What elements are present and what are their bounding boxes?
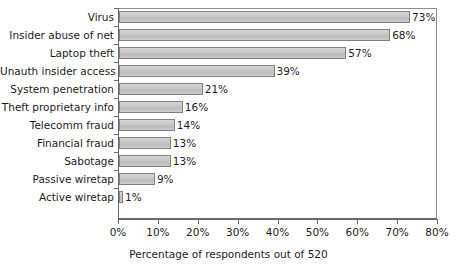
bar-row: Active wiretap1%	[0, 188, 457, 206]
bar	[119, 101, 183, 113]
x-axis-tick	[198, 219, 199, 224]
bar	[119, 29, 390, 41]
y-axis-tick	[114, 170, 118, 171]
category-label: Passive wiretap	[0, 170, 114, 188]
category-label: Telecomm fraud	[0, 116, 114, 134]
bar-row: Financial fraud13%	[0, 134, 457, 152]
bar-value-label: 57%	[348, 46, 371, 60]
bar-row: System penetration21%	[0, 80, 457, 98]
category-label: System penetration	[0, 80, 114, 98]
bar-value-label: 13%	[173, 136, 196, 150]
category-label: Laptop theft	[0, 44, 114, 62]
bar-value-label: 16%	[185, 100, 208, 114]
bar-value-label: 21%	[205, 82, 228, 96]
bar	[119, 47, 346, 59]
bar-rows: Virus73%Insider abuse of net68%Laptop th…	[0, 8, 457, 219]
x-axis-tick-label: 10%	[136, 226, 180, 238]
category-label: Financial fraud	[0, 134, 114, 152]
x-axis-tick	[397, 219, 398, 224]
bar	[119, 155, 171, 167]
category-label: Virus	[0, 8, 114, 26]
bar-row: Insider abuse of net68%	[0, 26, 457, 44]
bar-value-label: 68%	[392, 28, 415, 42]
y-axis-tick	[114, 188, 118, 189]
bar-chart: Virus73%Insider abuse of net68%Laptop th…	[0, 0, 457, 278]
y-axis-tick	[114, 44, 118, 45]
page-footer-artifact	[250, 268, 440, 276]
x-axis-tick-label: 70%	[375, 226, 419, 238]
bar	[119, 173, 155, 185]
bar	[119, 137, 171, 149]
y-axis-tick	[114, 116, 118, 117]
bar-value-label: 9%	[157, 172, 174, 186]
bar-value-label: 39%	[277, 64, 300, 78]
bar-value-label: 73%	[412, 10, 435, 24]
x-axis-tick	[278, 219, 279, 224]
bar-row: Telecomm fraud14%	[0, 116, 457, 134]
category-label: Sabotage	[0, 152, 114, 170]
x-axis-tick-label: 20%	[176, 226, 220, 238]
bar-row: Theft proprietary info16%	[0, 98, 457, 116]
x-axis-tick-label: 0%	[96, 226, 140, 238]
x-axis-tick	[317, 219, 318, 224]
x-axis-tick	[158, 219, 159, 224]
y-axis-tick	[114, 26, 118, 27]
bar-value-label: 13%	[173, 154, 196, 168]
x-axis-tick-label: 30%	[216, 226, 260, 238]
bar-row: Passive wiretap9%	[0, 170, 457, 188]
bar-value-label: 14%	[177, 118, 200, 132]
bar	[119, 83, 203, 95]
category-label: Unauth insider access	[0, 62, 114, 80]
x-axis-tick-label: 40%	[256, 226, 300, 238]
bar	[119, 119, 175, 131]
bar	[119, 11, 410, 23]
x-axis-tick-label: 50%	[295, 226, 339, 238]
x-axis-tick	[437, 219, 438, 224]
bar-row: Unauth insider access39%	[0, 62, 457, 80]
x-axis-title: Percentage of respondents out of 520	[0, 248, 457, 260]
x-axis-tick	[357, 219, 358, 224]
y-axis-tick	[114, 98, 118, 99]
x-axis-tick-label: 60%	[335, 226, 379, 238]
bar-row: Virus73%	[0, 8, 457, 26]
bar-row: Laptop theft57%	[0, 44, 457, 62]
category-label: Theft proprietary info	[0, 98, 114, 116]
bar	[119, 191, 123, 203]
y-axis-tick	[114, 8, 118, 9]
bar	[119, 65, 275, 77]
y-axis-tick	[114, 134, 118, 135]
y-axis-tick	[114, 62, 118, 63]
category-label: Active wiretap	[0, 188, 114, 206]
bar-row: Sabotage13%	[0, 152, 457, 170]
x-axis-tick	[118, 219, 119, 224]
x-axis-tick-label: 80%	[415, 226, 457, 238]
y-axis-tick	[114, 152, 118, 153]
bar-value-label: 1%	[125, 190, 142, 204]
x-axis-tick	[238, 219, 239, 224]
y-axis-tick	[114, 80, 118, 81]
category-label: Insider abuse of net	[0, 26, 114, 44]
